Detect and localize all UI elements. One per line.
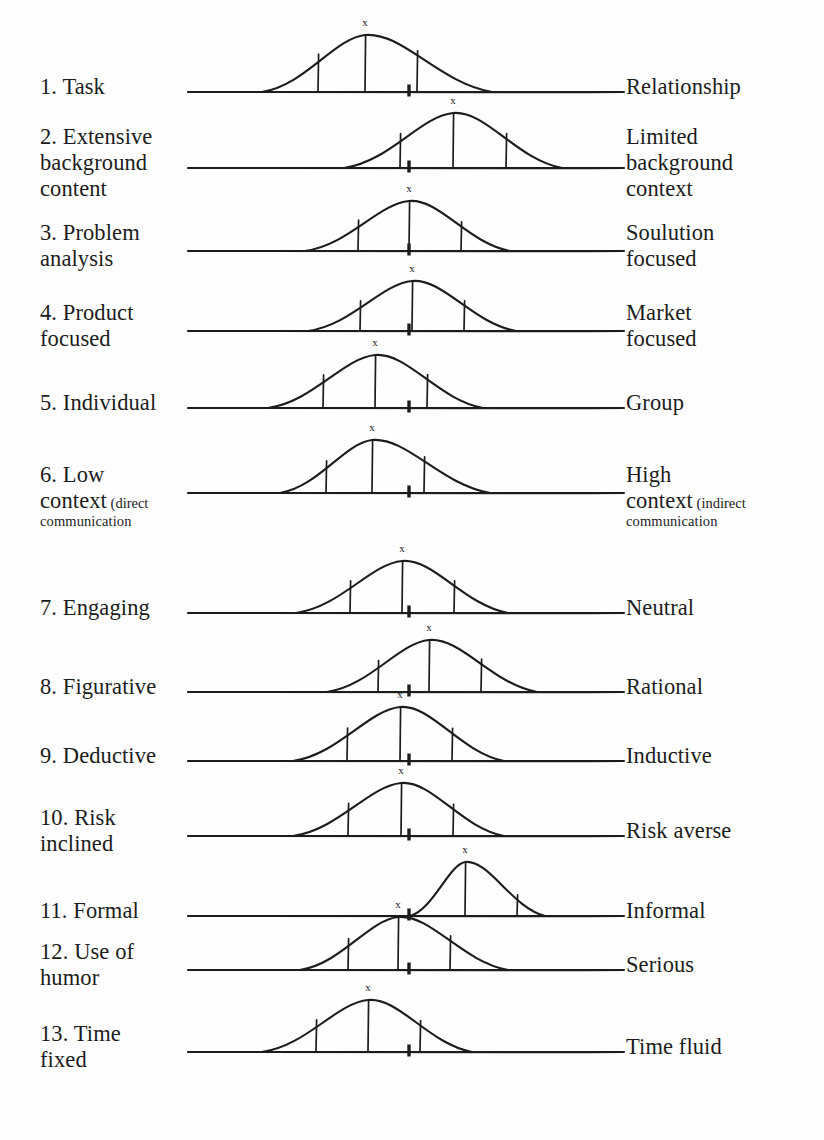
scale-label-left: 8. Figurative — [40, 674, 190, 700]
peak-x-marker: x — [409, 262, 415, 274]
label-line: content — [40, 176, 190, 202]
curve-tick-line — [464, 301, 465, 331]
label-parenthetical-cont: communication — [626, 513, 822, 529]
scale-label-left: 11. Formal — [40, 898, 190, 924]
scale-label-right: Time fluid — [626, 1034, 822, 1060]
curve-tick-line — [424, 457, 425, 493]
scale-label-left: 13. Timefixed — [40, 1021, 190, 1073]
bell-curve — [293, 707, 504, 761]
scale-label-right: Group — [626, 390, 822, 416]
label-line: 7. Engaging — [40, 595, 190, 621]
curve-apex-line — [401, 783, 402, 836]
curve-apex-line — [372, 440, 373, 493]
curve-tick-line — [427, 375, 428, 408]
label-line: 9. Deductive — [40, 743, 190, 769]
label-line: Limited — [626, 124, 822, 150]
scale-label-right: Soulutionfocused — [626, 220, 822, 272]
scale-label-right: Highcontext (indirectcommunication — [626, 462, 822, 529]
label-line: Rational — [626, 674, 822, 700]
scale-label-right: Marketfocused — [626, 300, 822, 352]
scale-label-right: Inductive — [626, 743, 822, 769]
label-line: Time fluid — [626, 1034, 822, 1060]
label-line: background — [40, 150, 190, 176]
scale-graphic: x — [186, 895, 626, 980]
peak-x-marker: x — [395, 898, 401, 910]
peak-x-marker: x — [450, 94, 456, 106]
label-line: 13. Time — [40, 1021, 190, 1047]
label-line: 8. Figurative — [40, 674, 190, 700]
scale-graphic: x — [186, 179, 626, 261]
label-line: context (indirectcommunication — [626, 488, 822, 529]
scale-graphic: x — [186, 91, 626, 178]
curve-apex-line — [402, 561, 403, 613]
curve-apex-line — [453, 113, 454, 168]
scale-label-right: Limitedbackgroundcontext — [626, 124, 822, 202]
scale-label-left: 12. Use ofhumor — [40, 939, 190, 991]
label-line: focused — [40, 326, 190, 352]
scale-label-right: Risk averse — [626, 818, 822, 844]
curve-tick-line — [461, 222, 462, 251]
label-line: context (directcommunication — [40, 488, 190, 529]
curve-tick-line — [347, 728, 348, 761]
curve-tick-line — [360, 301, 361, 331]
scale-baseline — [188, 836, 624, 837]
scale-baseline — [188, 1052, 624, 1053]
label-line: fixed — [40, 1047, 190, 1073]
peak-x-marker: x — [399, 542, 405, 554]
scale-graphic: x — [186, 761, 626, 846]
curve-tick-line — [450, 936, 451, 970]
label-line: Relationship — [626, 74, 822, 100]
peak-x-marker: x — [397, 688, 403, 700]
label-line: humor — [40, 965, 190, 991]
scale-diagram-page: 1. TaskRelationshipx2. Extensivebackgrou… — [0, 0, 824, 1140]
scale-graphic: x — [186, 13, 626, 102]
scale-graphic: x — [186, 539, 626, 623]
curve-tick-line — [348, 939, 349, 970]
curve-tick-line — [358, 220, 359, 251]
bell-curve — [300, 917, 508, 970]
curve-apex-line — [398, 917, 399, 970]
label-line: Group — [626, 390, 822, 416]
curve-tick-line — [318, 54, 319, 92]
label-line: 2. Extensive — [40, 124, 190, 150]
bell-curve — [293, 783, 504, 836]
scale-graphic: x — [186, 978, 626, 1062]
peak-x-marker: x — [362, 16, 368, 28]
peak-x-marker: x — [369, 421, 375, 433]
scale-label-left: 6. Lowcontext (directcommunication — [40, 462, 190, 529]
peak-x-marker: x — [462, 843, 468, 855]
peak-x-marker: x — [365, 981, 371, 993]
scale-label-left: 7. Engaging — [40, 595, 190, 621]
peak-x-marker: x — [372, 336, 378, 348]
curve-tick-line — [454, 581, 455, 613]
curve-apex-line — [365, 35, 366, 92]
scale-label-right: Rational — [626, 674, 822, 700]
label-line: 1. Task — [40, 74, 190, 100]
label-line: Soulution — [626, 220, 822, 246]
curve-tick-line — [417, 51, 418, 92]
label-line: 4. Product — [40, 300, 190, 326]
curve-tick-line — [323, 375, 324, 408]
curve-apex-line — [412, 281, 413, 331]
label-line: Informal — [626, 898, 822, 924]
bell-curve — [262, 35, 492, 92]
peak-x-marker: x — [398, 764, 404, 776]
scale-graphic: x — [186, 259, 626, 341]
label-line: 11. Formal — [40, 898, 190, 924]
scale-label-right: Serious — [626, 952, 822, 978]
label-line: Neutral — [626, 595, 822, 621]
label-parenthetical: (direct — [107, 495, 148, 511]
label-line: inclined — [40, 831, 190, 857]
scale-baseline — [188, 331, 624, 332]
label-line: focused — [626, 326, 822, 352]
label-line: Inductive — [626, 743, 822, 769]
scale-baseline — [188, 251, 624, 252]
scale-baseline — [188, 493, 624, 494]
label-parenthetical-cont: communication — [40, 513, 190, 529]
scale-label-left: 1. Task — [40, 74, 190, 100]
curve-tick-line — [420, 1021, 421, 1052]
scale-label-left: 2. Extensivebackgroundcontent — [40, 124, 190, 202]
label-line: focused — [626, 246, 822, 272]
scale-label-right: Neutral — [626, 595, 822, 621]
scale-baseline — [188, 613, 624, 614]
